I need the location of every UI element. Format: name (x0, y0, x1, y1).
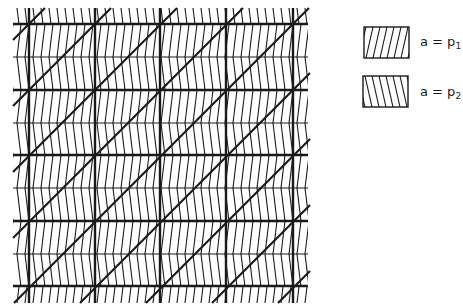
legend-swatch-1 (352, 27, 422, 58)
legend-label-p1-subscript: 1 (455, 41, 461, 51)
legend-label-p2-text: a = p (420, 84, 455, 99)
legend-label-p1-text: a = p (420, 34, 455, 49)
legend-label-p2: a = p2 (420, 84, 461, 101)
legend-label-p1: a = p1 (420, 34, 461, 51)
legend-label-p2-subscript: 2 (455, 91, 461, 101)
legend-boxes (351, 27, 422, 107)
lattice-diagram (0, 0, 463, 308)
legend-swatch-2 (351, 76, 421, 107)
